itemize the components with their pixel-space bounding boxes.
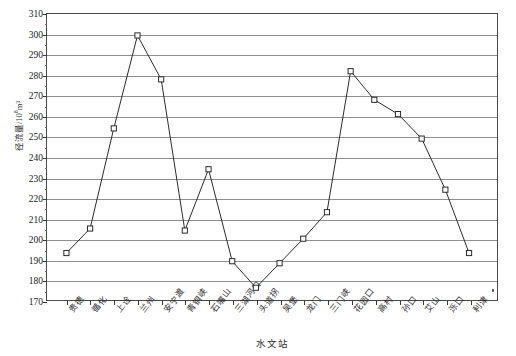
data-point-marker — [419, 136, 424, 141]
data-series-line — [47, 14, 497, 300]
data-point-marker — [348, 69, 353, 74]
data-point-marker — [372, 97, 377, 102]
y-axis-tick-label: 230 — [29, 174, 43, 184]
y-axis-tick-label: 240 — [29, 153, 43, 163]
y-axis-tick-label: 260 — [29, 112, 43, 122]
y-axis-tick-label: 270 — [29, 91, 43, 101]
y-axis-tick-label: 170 — [29, 297, 43, 307]
data-point-marker — [443, 187, 448, 192]
data-point-marker — [206, 167, 211, 172]
data-point-marker — [230, 259, 235, 264]
y-axis-tick-label: 310 — [29, 9, 43, 19]
data-point-marker — [324, 210, 329, 215]
y-axis-tick-label: 220 — [29, 194, 43, 204]
chart-figure: 径流量/108m³ 310300290280270260250240230220… — [0, 0, 516, 356]
data-point-marker — [277, 261, 282, 266]
data-point-marker — [111, 126, 116, 131]
y-axis-tick-label: 250 — [29, 132, 43, 142]
data-point-marker — [253, 285, 258, 290]
x-axis-title: 水文站 — [46, 336, 498, 350]
series-polyline — [66, 35, 469, 287]
y-axis-tick-label: 200 — [29, 235, 43, 245]
y-axis-title-text: 径流量/10 — [14, 113, 24, 151]
y-axis-title-unit: m³ — [14, 101, 24, 110]
data-point-marker — [159, 77, 164, 82]
y-axis-tick-label: 190 — [29, 256, 43, 266]
y-axis-tick-mark — [43, 302, 47, 303]
scan-artifact-speck — [492, 289, 494, 292]
y-axis-title: 径流量/108m³ — [12, 66, 24, 186]
y-axis-tick-label: 180 — [29, 276, 43, 286]
data-point-marker — [135, 33, 140, 38]
y-axis-title-exponent: 8 — [13, 110, 19, 113]
data-point-marker — [182, 228, 187, 233]
data-point-marker — [64, 250, 69, 255]
y-axis-tick-label: 290 — [29, 50, 43, 60]
data-point-marker — [395, 112, 400, 117]
data-point-marker — [301, 236, 306, 241]
y-axis-tick-label: 210 — [29, 215, 43, 225]
data-point-marker — [88, 226, 93, 231]
y-axis-tick-label: 300 — [29, 30, 43, 40]
plot-area: 3103002902802702602502402302202102001901… — [46, 13, 498, 301]
y-axis-tick-label: 280 — [29, 71, 43, 81]
data-point-marker — [466, 250, 471, 255]
